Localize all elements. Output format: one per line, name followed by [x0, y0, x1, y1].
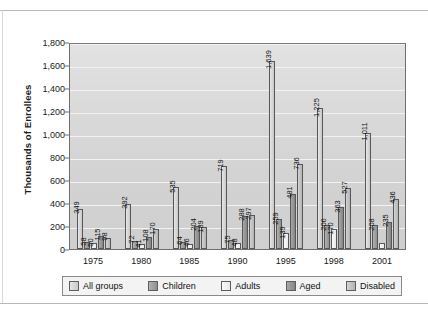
x-tick-label: 1980: [118, 256, 164, 266]
legend-label: Aged: [300, 281, 321, 291]
bar-value-label: 139: [279, 226, 287, 239]
bar-group: 3927241108170: [125, 44, 159, 249]
y-tick-label: 1,400: [17, 84, 65, 94]
x-tick-label: 1995: [263, 256, 309, 266]
y-tick-mark: [65, 66, 69, 67]
x-tick-label: 1998: [311, 256, 357, 266]
bar-value-label: 1,639: [265, 50, 273, 69]
y-tick-label: 1,600: [17, 61, 65, 71]
bar-value-label: 535: [168, 180, 176, 193]
bar-value-label: 235: [382, 215, 390, 228]
bar-value-label: 1,011: [361, 123, 369, 141]
chart-legend: All groupsChildrenAdultsAgedDisabled: [62, 276, 402, 296]
plot-wrapper: 3495850115983927241108170535644620418971…: [69, 43, 406, 250]
bar[interactable]: 736: [297, 164, 303, 249]
bar-value-label: 392: [120, 197, 128, 210]
bar[interactable]: 481: [290, 194, 296, 249]
plot-area: 3495850115983927241108170535644620418971…: [69, 43, 406, 250]
bar-value-label: 98: [100, 233, 108, 241]
bar-value-label: 719: [217, 159, 225, 172]
x-tick-label: 1990: [215, 256, 261, 266]
x-tick-label: 1985: [166, 256, 212, 266]
bar[interactable]: 208: [372, 225, 378, 249]
y-tick-mark: [65, 89, 69, 90]
x-tick-label: 1975: [70, 256, 116, 266]
bar-value-label: 363: [334, 200, 342, 213]
bar-value-label: 481: [286, 186, 294, 199]
bar[interactable]: 41: [139, 244, 145, 249]
legend-label: Children: [162, 281, 196, 291]
bar-group: 1,225206170363527: [317, 44, 351, 249]
page-rule-bottom: [0, 303, 428, 304]
bar-group: 1,639259139481736: [269, 44, 303, 249]
legend-item[interactable]: Aged: [286, 281, 321, 291]
bar[interactable]: 235: [386, 222, 392, 249]
bar-value-label: 46: [182, 239, 190, 247]
y-tick-mark: [65, 43, 69, 44]
bar-value-label: 527: [341, 181, 349, 194]
bar[interactable]: 363: [338, 207, 344, 249]
y-tick-label: 200: [17, 222, 65, 232]
bar-value-label: 189: [196, 220, 204, 233]
bar[interactable]: 288: [242, 216, 248, 249]
legend-label: Adults: [235, 281, 260, 291]
bar[interactable]: 108: [146, 237, 152, 249]
bar[interactable]: 189: [201, 227, 207, 249]
y-tick-mark: [65, 112, 69, 113]
bar-value-label: 170: [327, 222, 335, 235]
y-tick-label: 0: [17, 245, 65, 255]
legend-item[interactable]: Adults: [221, 281, 260, 291]
legend-label: Disabled: [360, 281, 395, 291]
bar[interactable]: 170: [331, 229, 337, 249]
y-tick-label: 1,800: [17, 38, 65, 48]
y-tick-mark: [65, 158, 69, 159]
y-tick-label: 800: [17, 153, 65, 163]
bar-group: 5356446204189: [173, 44, 207, 249]
x-tick-label: 2001: [359, 256, 405, 266]
legend-item[interactable]: All groups: [69, 281, 123, 291]
bar-value-label: 208: [368, 218, 376, 231]
y-tick-mark: [65, 181, 69, 182]
page-rule-left: [2, 10, 3, 304]
bar-group: 1,011208235436: [365, 44, 399, 249]
bar[interactable]: 50: [91, 243, 97, 249]
y-tick-label: 600: [17, 176, 65, 186]
bar[interactable]: 170: [153, 229, 159, 249]
bar-group: 349585011598: [77, 44, 111, 249]
bar[interactable]: 48: [235, 243, 241, 249]
bar[interactable]: 297: [249, 215, 255, 249]
bar[interactable]: 436: [393, 199, 399, 249]
legend-swatch-icon: [286, 281, 296, 291]
legend-label: All groups: [83, 281, 123, 291]
bar-value-label: 48: [231, 238, 239, 246]
y-tick-mark: [65, 250, 69, 251]
bar-group: 7197548288297: [221, 44, 255, 249]
bar[interactable]: 98: [105, 238, 111, 249]
bar[interactable]: 46: [187, 244, 193, 249]
legend-swatch-icon: [221, 281, 231, 291]
bar[interactable]: 139: [283, 233, 289, 249]
page-rule-top: [0, 10, 428, 11]
y-tick-label: 1,200: [17, 107, 65, 117]
legend-item[interactable]: Children: [148, 281, 196, 291]
y-tick-label: 400: [17, 199, 65, 209]
legend-swatch-icon: [148, 281, 158, 291]
legend-swatch-icon: [69, 281, 79, 291]
bar-value-label: 349: [72, 202, 80, 215]
bar-value-label: 436: [389, 192, 397, 205]
bar-value-label: 170: [148, 222, 156, 235]
bar[interactable]: 527: [345, 188, 351, 249]
y-tick-mark: [65, 227, 69, 228]
bar-value-label: 1,225: [313, 98, 321, 117]
y-tick-mark: [65, 204, 69, 205]
y-tick-mark: [65, 135, 69, 136]
bar-value-label: 297: [245, 208, 253, 221]
bar-value-label: 736: [293, 157, 301, 170]
bar[interactable]: [379, 243, 385, 249]
bar-value-label: 259: [272, 212, 280, 225]
chart-figure: Thousands of Enrollees 34958501159839272…: [0, 0, 428, 322]
legend-item[interactable]: Disabled: [346, 281, 395, 291]
bar[interactable]: 1,011: [365, 133, 371, 249]
legend-swatch-icon: [346, 281, 356, 291]
y-tick-label: 1,000: [17, 130, 65, 140]
